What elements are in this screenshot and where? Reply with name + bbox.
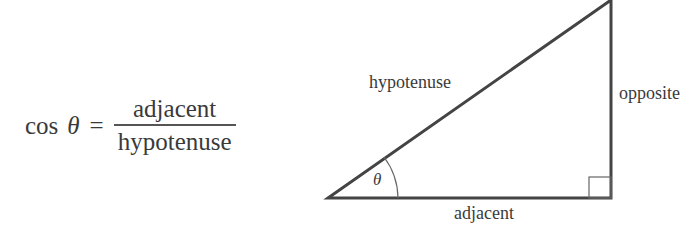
- angle-arc: [384, 157, 398, 198]
- label-theta: θ: [373, 170, 381, 190]
- label-opposite: opposite: [619, 83, 680, 104]
- right-triangle-diagram: [0, 0, 692, 225]
- right-angle-marker: [589, 177, 611, 198]
- label-adjacent: adjacent: [454, 203, 514, 224]
- triangle-shape: [328, 0, 611, 198]
- label-hypotenuse: hypotenuse: [369, 72, 451, 93]
